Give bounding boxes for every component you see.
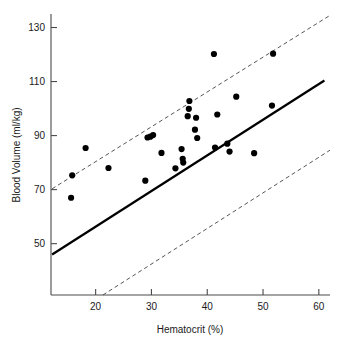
data-point <box>193 115 199 121</box>
data-point <box>186 106 192 112</box>
data-point <box>150 132 156 138</box>
data-point <box>68 195 74 201</box>
x-tick-label: 40 <box>202 301 214 312</box>
axes-group <box>51 14 330 295</box>
data-point <box>172 165 178 171</box>
y-tick-label: 130 <box>28 22 45 33</box>
data-point <box>158 150 164 156</box>
data-point <box>212 144 218 150</box>
x-tick-label: 50 <box>257 301 269 312</box>
data-point <box>269 102 275 108</box>
data-point <box>194 135 200 141</box>
y-axis-title: Blood Volume (ml/kg) <box>11 107 22 202</box>
plot-canvas: 507090110130 2030405060 Hematocrit (%) B… <box>0 0 337 341</box>
data-point <box>251 150 257 156</box>
data-point <box>82 145 88 151</box>
prediction-interval-lines <box>52 15 330 295</box>
scatter-plot-figure: 507090110130 2030405060 Hematocrit (%) B… <box>0 0 337 341</box>
y-axis-ticks: 507090110130 <box>28 22 57 249</box>
data-point <box>142 178 148 184</box>
y-tick-label: 110 <box>29 76 45 87</box>
data-point <box>185 113 191 119</box>
y-tick-label: 70 <box>34 184 46 195</box>
data-point <box>178 146 184 152</box>
data-point <box>180 160 186 166</box>
data-point <box>192 127 198 133</box>
y-tick-label: 50 <box>34 238 46 249</box>
prediction-interval-line <box>103 150 330 295</box>
x-axis-title: Hematocrit (%) <box>157 324 224 335</box>
x-tick-label: 20 <box>90 301 102 312</box>
x-axis-ticks: 2030405060 <box>90 289 325 312</box>
data-point <box>233 94 239 100</box>
data-point <box>69 172 75 178</box>
data-point <box>211 51 217 57</box>
x-tick-label: 60 <box>313 301 325 312</box>
data-point <box>105 165 111 171</box>
data-point <box>186 98 192 104</box>
data-point <box>226 148 232 154</box>
x-tick-label: 30 <box>146 301 158 312</box>
data-point <box>224 141 230 147</box>
data-point <box>270 51 276 57</box>
data-point <box>214 111 220 117</box>
y-tick-label: 90 <box>34 130 46 141</box>
